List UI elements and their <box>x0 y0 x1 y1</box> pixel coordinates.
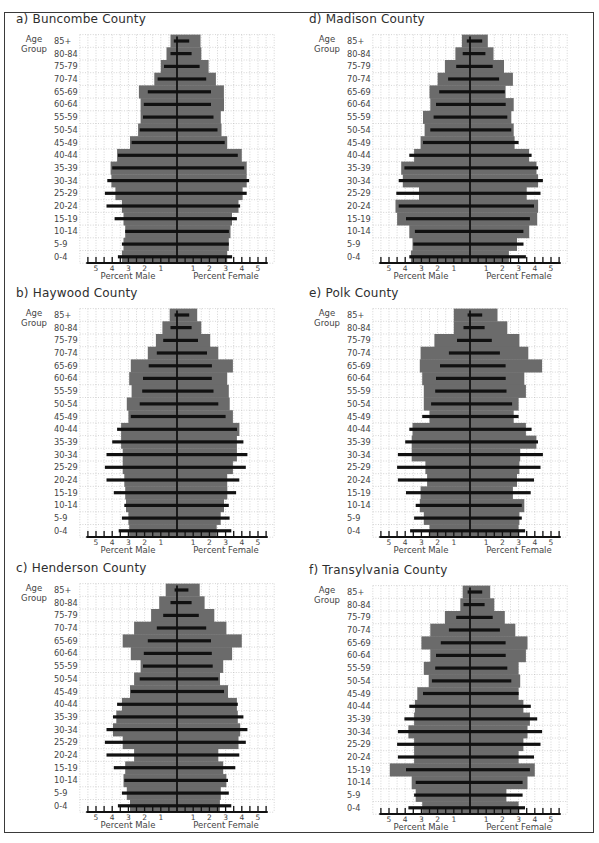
x-tick-label: 1 <box>158 264 163 273</box>
x-tick-label: 1 <box>451 538 456 547</box>
age-group-label: 55-59 <box>54 112 78 122</box>
black-bar <box>464 326 485 329</box>
age-group-label: 25-29 <box>54 188 78 198</box>
age-group-label: 65-69 <box>347 87 371 97</box>
black-bar <box>456 616 493 619</box>
age-group-label: 35-39 <box>347 163 371 173</box>
age-group-label: 85+ <box>54 36 71 46</box>
age-group-label: 80-84 <box>54 598 78 608</box>
age-group-label: 75-79 <box>347 612 371 622</box>
age-group-label: 10-14 <box>347 777 371 787</box>
black-bar <box>408 806 525 809</box>
black-bar <box>118 804 231 807</box>
age-group-label: 15-19 <box>347 488 371 498</box>
black-bar <box>441 641 506 644</box>
age-group-label: 75-79 <box>347 335 371 345</box>
black-bar <box>131 415 226 418</box>
age-group-label: 15-19 <box>347 765 371 775</box>
age-group-label: 65-69 <box>54 361 78 371</box>
shaded-bars <box>390 586 535 815</box>
age-group-label: 65-69 <box>347 638 371 648</box>
black-bar <box>440 364 506 367</box>
age-group-label: 20-24 <box>54 750 78 760</box>
x-tick-label: 5 <box>387 538 392 547</box>
black-bar <box>107 204 241 207</box>
black-bar <box>149 364 212 367</box>
age-group-label: 30-34 <box>347 176 371 186</box>
age-group-label: 45-49 <box>347 412 371 422</box>
x-tick-label: 5 <box>387 264 392 273</box>
x-tick-label: 5 <box>94 264 99 273</box>
black-bar <box>406 768 530 771</box>
black-bar <box>122 792 229 795</box>
black-bar <box>107 179 249 182</box>
age-group-label: 70-74 <box>54 623 78 633</box>
age-group-label: 55-59 <box>54 386 78 396</box>
age-group-label: 15-19 <box>347 214 371 224</box>
black-bar <box>435 667 507 670</box>
black-bar <box>112 166 244 169</box>
age-group-label: 35-39 <box>54 163 78 173</box>
x-axis-label-male: Percent Male <box>101 820 156 830</box>
black-bar <box>105 741 246 744</box>
black-bar <box>140 677 219 680</box>
black-bar <box>114 766 236 769</box>
y-axis-label: Age Group <box>19 584 49 603</box>
y-axis-label: Age Group <box>19 35 49 54</box>
black-bar <box>432 679 511 682</box>
black-bar <box>414 517 522 520</box>
black-bar <box>158 77 207 80</box>
black-bar <box>409 255 526 258</box>
y-axis-label: Age Group <box>312 35 342 54</box>
age-group-label: 45-49 <box>347 689 371 699</box>
age-group-label: 15-19 <box>54 214 78 224</box>
age-group-label: 40-44 <box>54 424 78 434</box>
black-bar <box>107 478 240 481</box>
age-group-label: 65-69 <box>347 361 371 371</box>
age-group-label: 55-59 <box>54 661 78 671</box>
age-group-label: 85+ <box>54 310 71 320</box>
age-group-label: 5-9 <box>54 788 67 798</box>
age-group-labels: 85+80-8475-7970-7465-6960-6455-5950-5445… <box>347 310 371 536</box>
black-bar <box>157 351 207 354</box>
panel-buncombe-county: 543211234585+80-8475-7970-7465-6960-6455… <box>0 0 296 290</box>
age-group-label: 75-79 <box>54 61 78 71</box>
age-group-label: 50-54 <box>347 125 371 135</box>
age-group-label: 50-54 <box>54 399 78 409</box>
age-group-label: 60-64 <box>347 650 371 660</box>
panel-transylvania-county: 543211234585+80-8475-7970-7465-6960-6455… <box>293 551 589 841</box>
age-group-label: 35-39 <box>54 712 78 722</box>
black-bar <box>122 517 230 520</box>
age-group-label: 70-74 <box>347 625 371 635</box>
black-bar <box>143 116 214 119</box>
black-bar <box>148 90 211 93</box>
age-group-label: 40-44 <box>347 424 371 434</box>
age-group-label: 70-74 <box>347 348 371 358</box>
age-group-label: 5-9 <box>54 513 67 523</box>
x-tick-label: 5 <box>94 538 99 547</box>
age-group-label: 30-34 <box>54 176 78 186</box>
age-group-label: 50-54 <box>347 676 371 686</box>
age-group-label: 30-34 <box>347 727 371 737</box>
black-bar <box>171 326 192 329</box>
y-axis-label: Age Group <box>19 309 49 328</box>
x-tick-label: 5 <box>387 815 392 824</box>
black-bar <box>397 466 540 469</box>
age-group-label: 50-54 <box>54 674 78 684</box>
shaded-bars <box>111 35 247 264</box>
age-group-label: 80-84 <box>347 49 371 59</box>
age-group-label: 75-79 <box>54 610 78 620</box>
age-group-label: 75-79 <box>54 335 78 345</box>
black-bar <box>398 478 534 481</box>
black-bar <box>456 65 493 68</box>
age-group-label: 25-29 <box>54 737 78 747</box>
age-group-label: 35-39 <box>347 714 371 724</box>
age-group-label: 75-79 <box>347 61 371 71</box>
age-group-label: 50-54 <box>54 125 78 135</box>
age-group-label: 0-4 <box>347 252 360 262</box>
x-axis-label-female: Percent Female <box>486 822 551 832</box>
panel-title: c) Henderson County <box>16 561 147 575</box>
age-group-labels: 85+80-8475-7970-7465-6960-6455-5950-5445… <box>54 585 78 811</box>
age-group-label: 55-59 <box>347 112 371 122</box>
black-bar <box>140 402 219 405</box>
